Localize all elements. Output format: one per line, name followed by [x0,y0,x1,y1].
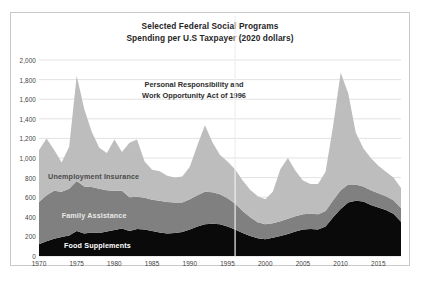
x-axis-tick-label: 1995 [220,260,235,267]
y-axis-tick-label: 1,200 [20,135,37,142]
y-axis-tick-label: 0 [32,253,36,260]
x-axis-tick-label: 2015 [371,260,386,267]
y-axis-tick-label: 1,600 [20,96,37,103]
series-label-unemployment-insurance: Unemployment Insurance [48,171,139,180]
x-axis-tick-label: 2010 [333,260,348,267]
stacked-areas [39,73,401,256]
x-axis-tick-label: 1970 [32,260,47,267]
y-axis-tick-label: 1,800 [20,76,37,83]
x-axis-tick-label: 1990 [183,260,198,267]
series-label-family-assistance: Family Assistance [62,210,127,219]
series-label-food-supplements: Food Supplements [64,241,131,250]
x-axis-tick-label: 1980 [107,260,122,267]
x-axis-tick-label: 2005 [296,260,311,267]
y-axis-tick-label: 200 [25,233,36,240]
y-axis-tick-label: 400 [25,213,36,220]
y-axis-tick-label: 1,000 [20,155,37,162]
chart-frame: Selected Federal Social Programs Spendin… [10,12,410,266]
y-axis-tick-label: 1,400 [20,115,37,122]
plot-area: 02004006008001,0001,2001,4001,6001,8002,… [39,60,401,256]
area-chart-svg [39,60,401,256]
y-axis-tick-label: 600 [25,194,36,201]
chart-title: Selected Federal Social Programs [11,21,409,33]
x-axis-tick-label: 1985 [145,260,160,267]
y-axis-tick-label: 800 [25,174,36,181]
chart-title-block: Selected Federal Social Programs Spendin… [11,21,409,44]
y-axis-tick-label: 2,000 [20,57,37,64]
x-axis-tick-label: 1975 [69,260,84,267]
chart-subtitle: Spending per U.S Taxpayer (2020 dollars) [11,33,409,45]
x-axis-tick-label: 2000 [258,260,273,267]
chart-screenshot: Selected Federal Social Programs Spendin… [0,0,423,284]
